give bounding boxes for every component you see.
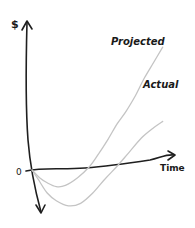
chart: $ Time 0 Projected Actual bbox=[0, 0, 195, 228]
series-label-projected: Projected bbox=[111, 36, 166, 47]
y-axis-label: $ bbox=[11, 18, 19, 31]
x-axis-label: Time bbox=[160, 163, 185, 173]
series-layer bbox=[32, 47, 163, 206]
series-label-actual: Actual bbox=[142, 79, 179, 90]
origin-label: 0 bbox=[16, 167, 22, 177]
series-line-actual bbox=[32, 121, 163, 206]
series-line-projected bbox=[32, 47, 163, 187]
x-axis-line bbox=[26, 155, 174, 171]
y-axis-line bbox=[26, 22, 41, 212]
